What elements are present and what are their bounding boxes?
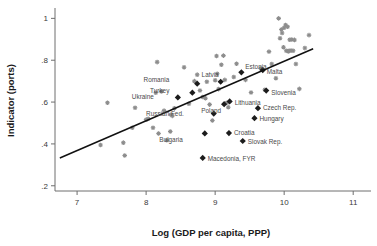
x-tick-label: 10 <box>280 198 289 207</box>
x-tick-label: 9 <box>213 198 218 207</box>
data-point-other <box>281 45 286 50</box>
data-point-highlighted <box>226 130 232 136</box>
data-point-label: Romania <box>144 76 170 83</box>
data-point-highlighted <box>238 69 244 75</box>
data-point-other <box>221 53 226 58</box>
data-point-other <box>98 143 103 148</box>
data-point-highlighted <box>175 94 181 100</box>
data-point-other <box>297 87 302 92</box>
data-point-other <box>210 118 215 123</box>
data-point-other <box>231 75 236 80</box>
data-point-other <box>205 79 210 84</box>
data-point-other <box>133 105 138 110</box>
y-tick-label: .8 <box>41 56 48 65</box>
data-point-highlighted <box>240 138 246 144</box>
data-point-other <box>122 153 127 158</box>
y-axis-title: Indicator (ports) <box>5 64 16 137</box>
data-point-highlighted <box>200 155 206 161</box>
y-tick-label: .4 <box>41 140 48 149</box>
data-point-other <box>292 38 297 43</box>
data-point-other <box>234 61 239 66</box>
data-point-label: Latvia <box>202 71 219 78</box>
data-point-other <box>294 62 299 67</box>
data-point-label: Slovenia <box>271 89 296 96</box>
data-point-label: Slovak Rep. <box>248 138 283 146</box>
y-tick-label: 1 <box>44 14 49 23</box>
data-point-other <box>198 88 203 93</box>
data-point-label: Estonia <box>245 63 267 70</box>
data-point-other <box>121 140 126 145</box>
y-tick-label: .6 <box>41 98 48 107</box>
data-point-other <box>203 96 208 101</box>
data-point-other <box>307 33 312 38</box>
axes-group <box>55 8 371 191</box>
y-tick-label: .2 <box>41 182 48 191</box>
data-point-other <box>280 31 285 36</box>
data-point-other <box>156 131 161 136</box>
x-tick-label: 8 <box>144 198 149 207</box>
data-point-label: Lithuania <box>235 99 261 106</box>
data-point-label: Czech Rep. <box>263 104 297 112</box>
data-point-other <box>213 78 218 83</box>
data-point-other <box>226 105 231 110</box>
data-point-other <box>278 36 283 41</box>
x-tick-label: 7 <box>75 198 80 207</box>
data-point-other <box>219 63 224 68</box>
data-point-label: Bulgaria <box>159 136 183 144</box>
data-point-other <box>274 76 279 81</box>
data-point-other <box>285 24 290 29</box>
data-point-other <box>182 65 187 70</box>
plot-canvas: .2.4.6.817891011 EstoniaMaltaSloveniaCze… <box>0 0 377 246</box>
axis-titles-group: Log (GDP per capita, PPP)Indicator (port… <box>5 64 270 238</box>
data-point-highlighted <box>202 130 208 136</box>
data-point-highlighted <box>189 90 195 96</box>
data-point-other <box>276 16 281 21</box>
data-point-other <box>168 129 173 134</box>
data-point-other <box>267 49 272 54</box>
tick-group: .2.4.6.817891011 <box>41 14 358 207</box>
data-point-other <box>249 90 254 95</box>
data-point-highlighted <box>251 115 257 121</box>
x-axis-title: Log (GDP per capita, PPP) <box>152 227 271 238</box>
data-point-label: Ukraine <box>132 93 154 100</box>
point-labels-group: EstoniaMaltaSloveniaCzech Rep.HungarySlo… <box>132 63 297 162</box>
scatter-chart: .2.4.6.817891011 EstoniaMaltaSloveniaCze… <box>0 0 377 246</box>
x-tick-label: 11 <box>349 198 358 207</box>
data-point-other <box>214 54 219 59</box>
data-point-other <box>155 60 160 65</box>
data-point-label: Russian Fed. <box>146 110 184 117</box>
data-point-label: Malta <box>267 68 283 75</box>
data-point-label: Macedonia, FYR <box>208 155 256 162</box>
data-point-other <box>195 72 200 77</box>
data-point-label: Poland <box>201 107 221 114</box>
data-point-label: Croatia <box>234 129 255 136</box>
data-point-other <box>303 46 308 51</box>
data-point-label: Hungary <box>259 115 284 123</box>
data-point-other <box>151 126 156 131</box>
data-point-other <box>105 100 110 105</box>
